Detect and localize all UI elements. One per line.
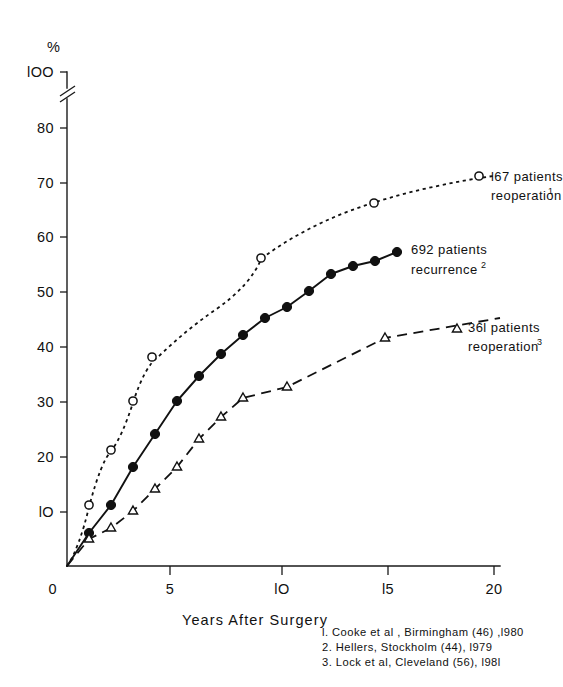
series-1-marker-y1[interactable] [85,501,93,509]
x-tick-label-20: 20 [486,581,503,597]
footnote-item-1: l. Cooke et al , Birmingham (46) ,l980 [322,626,524,638]
y-tick-label-20: 20 [37,449,54,465]
annotation-series-2: 692 patients recurrence 2 [411,242,487,277]
series-167-patients-reoperation[interactable] [67,172,493,566]
annotation-series-3: 36l patients reoperation 3 [452,320,542,354]
y-tick-label-80: 80 [37,120,54,136]
series-3-marker-y2[interactable] [106,523,115,531]
x-axis: 5 lO l5 20 Years After Surgery [67,566,502,628]
annotation-2-superscript: 2 [481,260,486,270]
series-3-marker-y10[interactable] [282,382,291,390]
series-2-marker-y15[interactable] [392,247,401,256]
x-axis-title: Years After Surgery [182,612,328,628]
series-2-line [67,252,397,566]
y-tick-label-30: 30 [37,394,54,410]
annotation-1-line1: l67 patients [491,169,563,184]
series-1-marker-y19[interactable] [475,172,483,180]
chart-figure: lOO 80 70 60 50 40 30 20 lO 0 % 5 lO l5 … [0,0,563,687]
footnote-list: l. Cooke et al , Birmingham (46) ,l980 2… [322,626,524,668]
series-2-marker-y3[interactable] [128,462,137,471]
annotation-2-line2: recurrence [411,262,478,277]
series-2-marker-y5[interactable] [172,396,181,405]
y-tick-label-70: 70 [37,175,54,191]
series-2-marker-y10[interactable] [282,302,291,311]
series-1-line [67,176,493,566]
annotation-2-line1: 692 patients [411,242,487,257]
y-tick-label-50: 50 [37,284,54,300]
y-axis-unit-label: % [47,39,60,55]
series-2-marker-y6[interactable] [194,371,203,380]
y-tick-label-100: lOO [27,64,54,80]
chart-page: lOO 80 70 60 50 40 30 20 lO 0 % 5 lO l5 … [0,0,563,687]
series-2-marker-y8[interactable] [238,330,247,339]
series-2-marker-y2[interactable] [106,500,115,509]
y-tick-label-60: 60 [37,229,54,245]
series-2-marker-y14[interactable] [370,256,379,265]
series-361-patients-reoperation[interactable] [67,318,500,566]
x-tick-label-10: lO [274,581,289,597]
series-2-marker-y13[interactable] [348,261,357,270]
series-1-marker-y9[interactable] [257,254,265,262]
annotation-3-line1: 36l patients [468,320,540,335]
series-2-marker-y9[interactable] [260,313,269,322]
series-2-marker-y4[interactable] [150,429,159,438]
series-3-line [67,318,500,566]
annotation-1-superscript: 1 [548,186,553,196]
footnote-item-3: 3. Lock et al, Cleveland (56), l98l [322,656,501,668]
series-2-marker-y7[interactable] [216,349,225,358]
series-1-marker-y14[interactable] [370,199,378,207]
y-tick-label-10: lO [39,504,54,520]
series-2-marker-y11[interactable] [304,286,313,295]
annotation-3-line2: reoperation [468,339,539,354]
y-tick-label-0: 0 [49,581,57,597]
y-tick-label-40: 40 [37,339,54,355]
x-tick-label-5: 5 [166,581,174,597]
series-1-marker-y4[interactable] [148,353,156,361]
y-axis: lOO 80 70 60 50 40 30 20 lO 0 % [27,39,75,597]
footnote-item-2: 2. Hellers, Stockholm (44), l979 [322,641,492,653]
annotation-series-1: l67 patients reoperation 1 [491,169,563,203]
series-2-marker-y12[interactable] [326,269,335,278]
annotation-3-superscript: 3 [537,337,542,347]
series-1-marker-y3[interactable] [129,397,137,405]
series-1-marker-y2[interactable] [107,446,115,454]
x-tick-label-15: l5 [382,581,394,597]
